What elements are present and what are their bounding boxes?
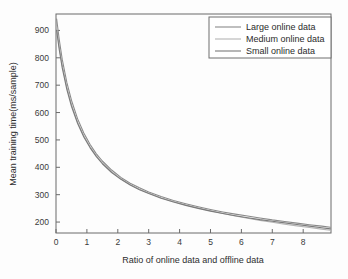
- y-tick-label: 300: [35, 190, 49, 200]
- y-tick-label: 500: [35, 135, 49, 145]
- x-tick-label: 8: [301, 237, 306, 247]
- x-tick-label: 7: [270, 237, 275, 247]
- x-axis-ticks: 012345678: [54, 229, 306, 247]
- y-tick-label: 600: [35, 108, 49, 118]
- x-tick-label: 5: [208, 237, 213, 247]
- line-chart: 012345678 200300400500600700800900 Ratio…: [0, 0, 348, 279]
- legend-label-1: Medium online data: [246, 34, 325, 44]
- y-tick-label: 400: [35, 162, 49, 172]
- x-tick-label: 6: [239, 237, 244, 247]
- legend-items: Large online dataMedium online dataSmall…: [215, 22, 325, 56]
- x-tick-label: 4: [177, 237, 182, 247]
- x-axis-title: Ratio of online data and offline data: [122, 255, 263, 265]
- x-tick-label: 1: [85, 237, 90, 247]
- figure-container: 012345678 200300400500600700800900 Ratio…: [0, 0, 348, 279]
- x-tick-label: 2: [115, 237, 120, 247]
- legend[interactable]: Large online dataMedium online dataSmall…: [209, 17, 331, 58]
- y-tick-label: 800: [35, 53, 49, 63]
- x-tick-label: 0: [54, 237, 59, 247]
- x-tick-label: 3: [146, 237, 151, 247]
- y-tick-label: 900: [35, 25, 49, 35]
- y-tick-label: 200: [35, 217, 49, 227]
- y-tick-label: 700: [35, 80, 49, 90]
- legend-label-2: Small online data: [246, 46, 315, 56]
- legend-label-0: Large online data: [246, 22, 316, 32]
- series-line-2: [57, 30, 331, 228]
- y-axis-title: Mean training time(ms/sample): [8, 62, 18, 186]
